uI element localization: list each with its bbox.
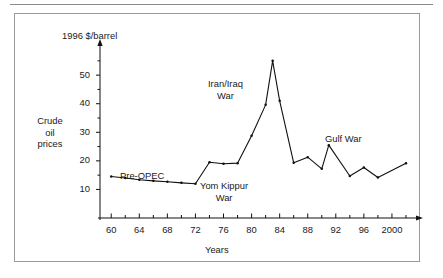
x-axis-tick-label: 68 (152, 224, 182, 235)
data-point-marker (194, 182, 197, 185)
data-point-marker (377, 176, 380, 179)
data-point-marker (138, 178, 141, 181)
data-point-marker (180, 182, 183, 185)
x-axis-tick-label: 84 (265, 224, 295, 235)
data-point-marker (110, 175, 113, 178)
data-point-marker (363, 166, 366, 169)
x-axis-tick-label: 76 (209, 224, 239, 235)
y-axis-tick-label: 20 (68, 154, 90, 165)
x-axis-tick-label: 92 (321, 224, 351, 235)
data-point-marker (250, 134, 253, 137)
figure-page: 1996 $/barrel Crude oil prices Pre-OPEC … (0, 0, 443, 278)
x-axis-tick-label: 60 (96, 224, 126, 235)
y-axis-tick-label: 30 (68, 126, 90, 137)
data-point-marker (208, 161, 211, 164)
x-axis-tick-label: 64 (124, 224, 154, 235)
data-point-marker (292, 162, 295, 165)
data-point-marker (166, 180, 169, 183)
y-axis-arrow-icon (97, 39, 102, 46)
data-point-marker (328, 144, 331, 147)
x-axis-tick-label: 72 (180, 224, 210, 235)
data-point-marker (264, 104, 267, 107)
data-point-marker (222, 162, 225, 165)
x-axis-tick-label: 88 (293, 224, 323, 235)
line-chart-plot (0, 0, 443, 278)
x-axis-tick-label: 2000 (377, 224, 407, 235)
data-point-marker (124, 177, 127, 180)
x-axis-tick-label: 96 (349, 224, 379, 235)
data-point-marker (349, 175, 352, 178)
data-point-marker (152, 180, 155, 183)
y-axis-tick-label: 40 (68, 97, 90, 108)
y-axis-tick-label: 10 (68, 183, 90, 194)
data-point-marker (306, 156, 309, 159)
data-series-line (111, 61, 406, 184)
x-axis-arrow-icon (416, 215, 423, 220)
data-point-marker (405, 162, 408, 165)
data-point-marker (271, 60, 274, 63)
x-axis-tick-label: 80 (237, 224, 267, 235)
data-point-marker (236, 162, 239, 165)
data-point-marker (321, 168, 324, 171)
y-axis-tick-label: 50 (68, 69, 90, 80)
data-point-marker (278, 100, 281, 103)
